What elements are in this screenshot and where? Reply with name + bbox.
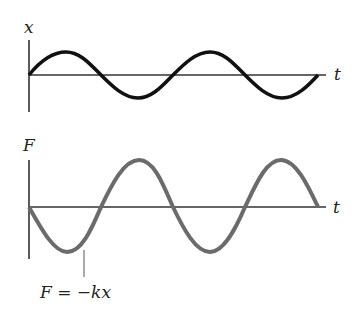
f-axis-label: F [22,135,36,155]
force-curve [29,160,318,252]
force-plot: F t F = −kx [22,135,340,302]
t-axis-label-top: t [334,64,341,84]
displacement-plot: x t [24,17,341,112]
spring-force-diagram: x t F t F = −kx [0,0,360,316]
force-equation-label: F = −kx [39,282,111,302]
t-axis-label-bottom: t [333,197,340,217]
x-axis-label: x [24,17,34,37]
